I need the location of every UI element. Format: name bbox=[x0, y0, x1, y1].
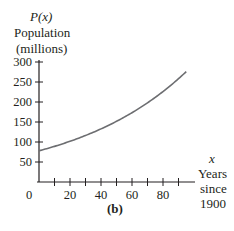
x-tick-label: 0 bbox=[26, 188, 32, 202]
y-tick-label: 150 bbox=[13, 115, 32, 129]
population-curve bbox=[39, 72, 186, 151]
x-tick-label: 80 bbox=[157, 188, 170, 202]
y-tick-label: 100 bbox=[13, 135, 32, 149]
x-tick-label: 20 bbox=[64, 188, 77, 202]
x-tick-label: 60 bbox=[126, 188, 139, 202]
y-tick-label: 200 bbox=[13, 95, 32, 109]
y-tick-label: 300 bbox=[13, 55, 32, 69]
y-tick-label: 50 bbox=[20, 155, 33, 169]
y-tick-label: 250 bbox=[13, 75, 32, 89]
chart-plot-area: 50100150200250300020406080 bbox=[0, 0, 234, 231]
x-tick-label: 40 bbox=[95, 188, 108, 202]
